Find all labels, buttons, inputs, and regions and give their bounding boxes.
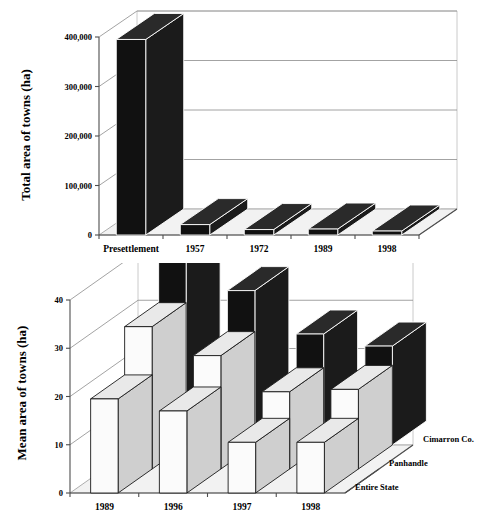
y-tick-label-3: 30 bbox=[55, 343, 64, 353]
bar-front bbox=[116, 39, 145, 235]
bar-front bbox=[297, 442, 325, 493]
series-axis-label-2: Cimarron Co. bbox=[423, 434, 474, 444]
x-category-label-0: 1989 bbox=[95, 502, 114, 512]
bar-side bbox=[146, 13, 184, 235]
y-tick-label-0: 0 bbox=[88, 230, 92, 240]
y-tick-label-2: 200,000 bbox=[64, 131, 92, 141]
figure-page: Total area of towns (ha) 0100,000200,000… bbox=[0, 0, 477, 526]
x-category-label-2: 1972 bbox=[250, 244, 269, 254]
mean-area-plot-area: 0102030401989199619971998Entire StatePan… bbox=[55, 263, 474, 512]
x-category-label-3: 1998 bbox=[301, 502, 320, 512]
x-category-label-3: 1989 bbox=[314, 244, 333, 254]
y-axis-title-bottom: Mean area of towns (ha) bbox=[14, 326, 29, 461]
x-category-label-1: 1957 bbox=[186, 244, 205, 254]
mean-area-chart-svg: Mean area of towns (ha) 0102030401989199… bbox=[0, 263, 477, 526]
total-area-chart-svg: Total area of towns (ha) 0100,000200,000… bbox=[0, 0, 477, 263]
series-axis-label-0: Entire State bbox=[355, 482, 399, 492]
y-tick-label-4: 40 bbox=[55, 295, 64, 305]
bar-front bbox=[228, 442, 256, 493]
bar-front bbox=[244, 230, 273, 235]
total-area-chart-panel: Total area of towns (ha) 0100,000200,000… bbox=[0, 0, 477, 263]
y-tick-label-1: 100,000 bbox=[64, 181, 92, 191]
y-tick-label-3: 300,000 bbox=[64, 82, 92, 92]
y-axis-title-top: Total area of towns (ha) bbox=[18, 69, 33, 200]
mean-area-chart-panel: Mean area of towns (ha) 0102030401989199… bbox=[0, 263, 477, 526]
x-category-label-1: 1996 bbox=[164, 502, 183, 512]
x-category-label-2: 1997 bbox=[232, 502, 251, 512]
y-tick-label-2: 20 bbox=[55, 392, 64, 402]
x-category-label-0: Presettlement bbox=[103, 244, 160, 254]
bar-front bbox=[180, 225, 209, 235]
y-tick-label-1: 10 bbox=[55, 440, 64, 450]
series-axis-label-1: Panhandle bbox=[389, 458, 428, 468]
total-area-plot-area: 0100,000200,000300,000400,000Presettleme… bbox=[64, 11, 457, 254]
gridline-depth-4 bbox=[70, 263, 138, 300]
bar-presettlement bbox=[116, 13, 183, 235]
bar-front bbox=[372, 231, 401, 235]
bar-front bbox=[159, 411, 187, 493]
x-category-label-4: 1998 bbox=[378, 244, 397, 254]
bar-front bbox=[308, 229, 337, 235]
bar bbox=[91, 375, 153, 493]
y-tick-label-4: 400,000 bbox=[64, 32, 92, 42]
bar-front bbox=[91, 399, 119, 493]
y-tick-label-0: 0 bbox=[59, 488, 63, 498]
